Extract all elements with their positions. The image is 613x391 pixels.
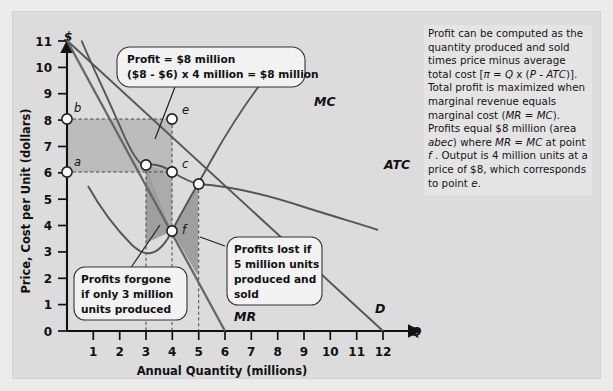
y-tick-3: 3 [44,245,52,259]
d-curve-label: D [375,301,385,316]
profits-lost-callout: Profits lost if 5 million units produced… [227,237,322,305]
point-label-a: a [74,155,81,169]
point-f-marker [167,226,177,236]
x-tick-7: 7 [247,345,255,359]
x-tick-11: 11 [348,345,365,359]
x-tick-12: 12 [375,345,392,359]
mr-curve-label: MR [234,309,256,324]
point-label-c: c [182,157,189,171]
atc-at-q3-marker [141,160,151,170]
x-tick-1: 1 [89,345,97,359]
lost-callout-line4: sold [234,288,259,300]
point-label-e: e [182,103,189,117]
x-tick-5: 5 [195,345,203,359]
explanation-panel: Profit can be computed as the quantity p… [424,25,592,195]
profit-callout-line1: Profit = $8 million [127,53,235,65]
point-a-marker [62,167,72,177]
y-tick-labels: 0 1 2 3 4 5 6 7 8 9 10 11 [35,35,52,339]
y-tick-6: 6 [44,166,52,180]
x-tick-3: 3 [142,345,150,359]
y-tick-2: 2 [44,272,52,286]
figure-container: 0 1 2 3 4 5 6 7 8 9 10 11 [0,0,613,391]
x-tick-2: 2 [116,345,124,359]
point-b-marker [62,114,72,124]
atc-at-q5-marker [194,179,204,189]
y-axis-ticks [58,41,67,331]
point-c-marker [167,167,177,177]
lost-callout-line2: 5 million units [234,258,319,270]
mc-curve-label: MC [314,94,336,109]
atc-curve-label: ATC [383,157,411,172]
x-tick-8: 8 [274,345,282,359]
profits-forgone-callout: Profits forgone if only 3 million units … [74,267,187,320]
x-axis-ticks [93,331,383,340]
forgone-callout-line2: if only 3 million [81,288,173,300]
lost-callout-line3: produced and [234,273,316,285]
y-tick-11: 11 [35,35,52,49]
point-label-b: b [74,101,81,115]
x-tick-labels: 1 2 3 4 5 6 7 8 9 10 11 12 [89,345,391,359]
x-tick-10: 10 [322,345,339,359]
figure-panel: 0 1 2 3 4 5 6 7 8 9 10 11 [12,11,601,379]
y-tick-5: 5 [44,193,52,207]
forgone-callout-line1: Profits forgone [81,273,171,285]
explanation-text: Profit can be computed as the quantity p… [428,27,588,190]
x-tick-4: 4 [168,345,176,359]
profit-callout-line2: ($8 - $6) x 4 million = $8 million [127,68,319,80]
y-tick-7: 7 [44,140,52,154]
x-tick-6: 6 [221,345,229,359]
x-tick-9: 9 [300,345,308,359]
y-tick-9: 9 [44,87,52,101]
y-tick-8: 8 [44,114,52,128]
y-tick-0: 0 [44,325,52,339]
x-axis-symbol: Q [411,324,422,339]
y-tick-4: 4 [44,219,52,233]
y-tick-1: 1 [44,298,52,312]
economics-profit-maximization-chart: 0 1 2 3 4 5 6 7 8 9 10 11 [12,11,422,379]
y-axis-title: Price, Cost per Unit (dollars) [19,108,33,293]
point-e-marker [167,114,177,124]
lost-callout-line1: Profits lost if [234,243,312,255]
profit-callout: Profit = $8 million ($8 - $6) x 4 millio… [117,47,319,87]
x-axis-title: Annual Quantity (millions) [137,364,308,378]
y-tick-10: 10 [35,61,52,75]
lost-callout-leader [200,237,225,246]
forgone-callout-line3: units produced [81,303,171,315]
